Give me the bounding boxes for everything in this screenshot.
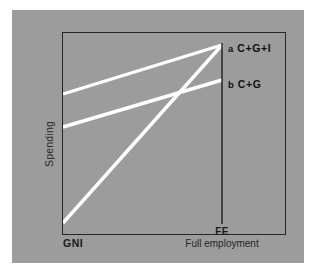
- plot-frame: [62, 32, 286, 235]
- y-axis-label: Spending: [43, 99, 55, 189]
- curve-label-a: aC+G+I: [228, 42, 271, 54]
- point-marker-b: b: [228, 79, 234, 90]
- full-employment-label-group: FE Full employment: [152, 226, 292, 250]
- curve-label-b: bC+G: [228, 78, 262, 90]
- figure-container: Spending GNI FE Full employment aC+G+I b…: [0, 0, 317, 274]
- equation-label-c-g-i: C+G+I: [237, 42, 271, 54]
- fe-full-text-label: Full employment: [152, 238, 292, 250]
- fe-abbreviation-label: FE: [152, 226, 292, 238]
- x-axis-origin-label: GNI: [63, 237, 83, 249]
- point-marker-a: a: [228, 43, 233, 54]
- equation-label-c-g: C+G: [238, 78, 262, 90]
- illustration-panel: Spending GNI FE Full employment aC+G+I b…: [12, 10, 304, 263]
